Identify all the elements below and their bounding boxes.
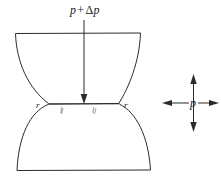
neck-radius-left-label: r <box>36 101 40 110</box>
sintering-neck-diagram <box>0 0 221 184</box>
ambient-pressure-label: p <box>190 97 196 109</box>
applied-pressure-delta-var: p <box>93 3 99 17</box>
length-right-label: l <box>92 107 94 115</box>
applied-pressure-label: p+Δp <box>70 4 100 16</box>
length-left-label: l <box>60 107 62 115</box>
figure-root: p+Δp p r r l l <box>0 0 221 184</box>
cross-arrow-down-head <box>190 122 196 132</box>
lower-particle-left-wall <box>17 105 48 171</box>
lower-particle <box>17 104 151 170</box>
pressure-arrow-down <box>81 20 88 104</box>
upper-particle-top-edge <box>16 33 141 34</box>
lower-particle-right-wall <box>120 104 151 170</box>
upper-particle-right-wall <box>119 33 141 103</box>
lower-particle-bottom-edge <box>17 170 151 171</box>
upper-particle-left-wall <box>16 34 49 104</box>
pressure-arrow-head <box>81 94 88 104</box>
cross-arrow-left-head <box>162 100 172 106</box>
neck-tick-right <box>95 108 97 114</box>
cross-arrow-right-head <box>209 100 219 106</box>
neck-tick-marks <box>62 108 97 114</box>
neck-radius-right-label: r <box>124 101 128 110</box>
cross-arrow-up-head <box>190 74 196 84</box>
upper-particle <box>16 33 141 104</box>
